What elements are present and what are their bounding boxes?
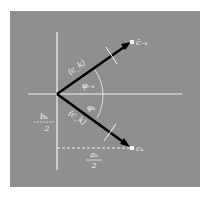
- angle-upper-label: φ₋ₖ: [82, 81, 95, 90]
- phasor-diagram: ⟨c_k⟩ ⟨c_k⟩ φ₋ₖ φₖ c̄₋ₖ cₖ bₖ 2 aₖ 2: [0, 0, 211, 197]
- a-numerator: aₖ: [90, 150, 98, 159]
- endpoint-lower-label: cₖ: [136, 144, 143, 153]
- vector-lower: [57, 94, 126, 144]
- rotation-mark-upper: [106, 47, 117, 64]
- b-numerator: bₖ: [40, 112, 48, 121]
- rotation-mark-lower: [104, 124, 116, 141]
- a-denominator: 2: [90, 161, 96, 170]
- b-denominator: 2: [43, 124, 49, 133]
- endpoint-lower-dot: [130, 146, 134, 150]
- endpoint-upper-dot: [130, 40, 134, 44]
- angle-lower-label: φₖ: [87, 103, 96, 112]
- vector-lower-label: ⟨c_k⟩: [67, 108, 88, 127]
- endpoint-upper-label: c̄₋ₖ: [136, 38, 148, 47]
